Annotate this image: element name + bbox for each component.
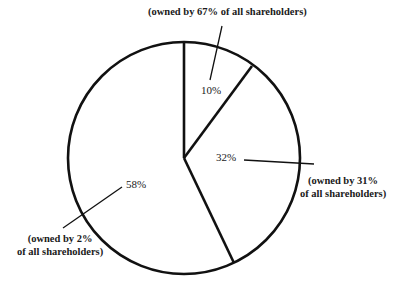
annotation-line: of all shareholders)	[300, 187, 386, 200]
annotation-line: of all shareholders)	[17, 245, 103, 258]
annotation-line: (owned by 31%	[300, 174, 386, 187]
label-slice-58: 58%	[126, 178, 146, 190]
label-slice-10: 10%	[201, 84, 221, 96]
label-slice-32: 32%	[216, 151, 236, 163]
annotation-slice-10: (owned by 67% of all shareholders)	[148, 5, 307, 18]
annotation-line: (owned by 2%	[17, 232, 103, 245]
annotation-slice-58: (owned by 2% of all shareholders)	[17, 232, 103, 258]
annotation-slice-32: (owned by 31% of all shareholders)	[300, 174, 386, 200]
